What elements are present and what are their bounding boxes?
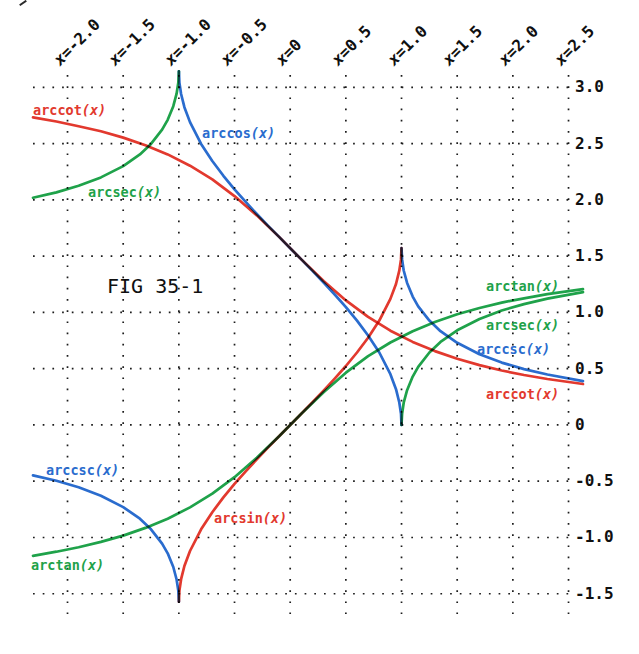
figure-35-1: x=-2.0x=-1.5x=-1.0x=-0.5x=0x=0.5x=1.0x=1…: [0, 0, 639, 654]
curve-arcsec-left: [33, 71, 179, 197]
curve-arccsc-left: [33, 475, 179, 601]
chart-canvas: [0, 0, 639, 654]
figure-caption: FIG 35-1: [107, 276, 203, 296]
curve-arcsin: [179, 248, 402, 602]
curve-arctan: [33, 289, 583, 556]
curve-arccot: [33, 117, 583, 384]
